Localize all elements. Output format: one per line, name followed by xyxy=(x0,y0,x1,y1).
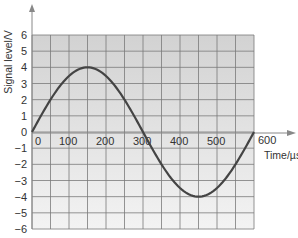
y-tick-label: 2 xyxy=(21,94,27,106)
y-tick-label: 0 xyxy=(21,126,27,138)
x-tick-label: 400 xyxy=(170,135,188,147)
y-tick-label: −1 xyxy=(14,142,27,154)
x-tick-label: 0 xyxy=(35,135,41,147)
y-axis-label: Signal level/V xyxy=(2,30,14,94)
y-tick-label: −3 xyxy=(14,175,27,187)
chart: 6543210−1−2−3−4−5−6 0100200300400500 Sig… xyxy=(0,0,298,238)
y-tick-label: −6 xyxy=(14,223,27,235)
x-axis-label: Time/µs xyxy=(264,149,298,161)
y-tick-label: 1 xyxy=(21,110,27,122)
x-axis-arrow-icon xyxy=(287,130,296,136)
y-tick-label: 5 xyxy=(21,45,27,57)
y-tick-label: −4 xyxy=(14,191,27,203)
y-tick-labels: 6543210−1−2−3−4−5−6 xyxy=(14,29,27,235)
y-tick-label: −5 xyxy=(14,207,27,219)
x-tick-label: 200 xyxy=(96,135,114,147)
y-tick-label: 4 xyxy=(21,61,27,73)
x-tick-label: 500 xyxy=(207,135,225,147)
y-tick-label: 3 xyxy=(21,78,27,90)
y-axis-arrow-icon xyxy=(29,4,35,12)
x-tick-600: 600 xyxy=(258,134,276,146)
x-tick-label: 100 xyxy=(59,135,77,147)
y-tick-label: 6 xyxy=(21,29,27,41)
y-tick-label: −2 xyxy=(14,158,27,170)
